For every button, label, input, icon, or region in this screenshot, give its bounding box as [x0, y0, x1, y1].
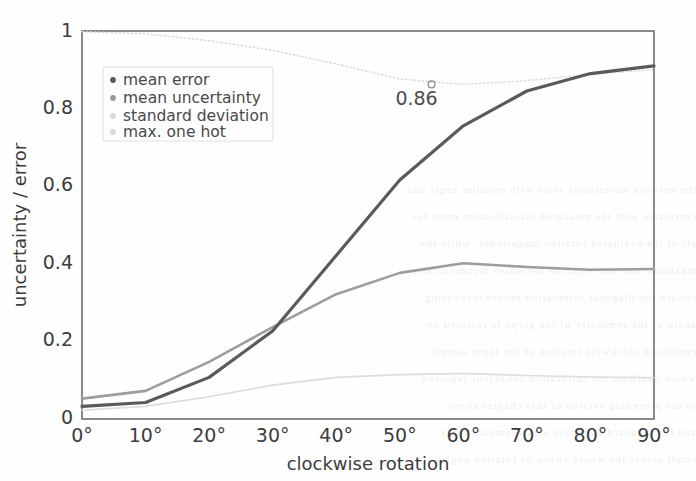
legend-item-mean-uncertainty[interactable]: mean uncertainty [110, 89, 261, 107]
y-tick-label: 0.4 [43, 251, 73, 273]
legend-item-label: mean uncertainty [123, 89, 261, 107]
y-axis-tick-labels: 1 0.8 0.6 0.4 0.2 0 [43, 19, 73, 428]
legend-item-label: mean error [123, 71, 210, 89]
y-tick-label: 0.8 [43, 96, 73, 118]
legend-marker-dot-icon [110, 77, 116, 83]
line-chart: 1 0.8 0.6 0.4 0.2 0 uncertainty / error … [0, 0, 696, 481]
legend-marker-dot-icon [110, 95, 116, 101]
x-axis-title: clockwise rotation [287, 453, 450, 474]
x-tick-label: 80° [574, 424, 608, 446]
annotation-label: 0.86 [395, 87, 437, 109]
legend-marker-dot-icon [110, 129, 116, 135]
legend-item-label: max. one hot [123, 123, 226, 141]
series-line-standard-deviation [82, 374, 654, 411]
figure-canvas: the network uncertainty rises with rotat… [0, 0, 696, 481]
y-axis-title: uncertainty / error [9, 142, 30, 307]
y-tick-label: 0.2 [43, 328, 73, 350]
x-tick-label: 0° [71, 424, 93, 446]
x-tick-label: 30° [256, 424, 290, 446]
x-tick-label: 20° [192, 424, 226, 446]
x-tick-label: 10° [129, 424, 163, 446]
legend-marker-dot-icon [110, 113, 116, 119]
series-line-mean-uncertainty [82, 263, 654, 398]
x-axis-tick-labels: 0° 10° 20° 30° 40° 50° 60° 70° 80° 90° [71, 424, 671, 446]
x-tick-label: 60° [446, 424, 480, 446]
legend-item-mean-error[interactable]: mean error [110, 71, 210, 89]
x-tick-label: 50° [383, 424, 417, 446]
annotation-group: 0.86 [395, 81, 437, 109]
x-tick-label: 70° [510, 424, 544, 446]
x-tick-label: 40° [319, 424, 353, 446]
y-tick-label: 0.6 [43, 173, 73, 195]
y-tick-label: 1 [61, 19, 73, 41]
legend: mean error mean uncertainty standard dev… [103, 67, 273, 141]
legend-item-max-one-hot[interactable]: max. one hot [110, 123, 226, 141]
x-tick-label: 90° [637, 424, 671, 446]
